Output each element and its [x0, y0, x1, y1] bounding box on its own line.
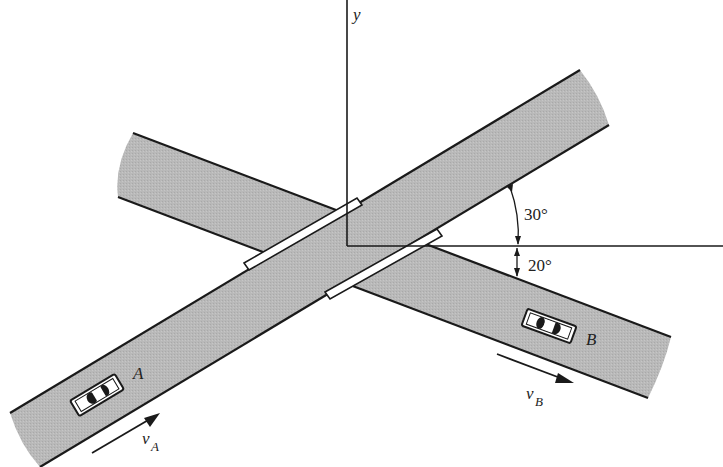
diagram-canvas: y 30° 20° A B v A v B — [0, 0, 723, 467]
arrowhead-icon — [555, 373, 574, 383]
angle-30-label: 30° — [524, 205, 548, 224]
car-b-label: B — [586, 330, 597, 349]
intersection-diagram: y 30° 20° A B v A v B — [0, 0, 723, 467]
velocity-a-label: v A — [142, 429, 159, 454]
svg-text:v: v — [142, 429, 150, 448]
angle-20-label: 20° — [528, 256, 552, 275]
angle-30-indicator — [506, 184, 521, 245]
arrowhead-icon — [514, 248, 520, 256]
arrowhead-icon — [514, 268, 520, 277]
arrowhead-icon — [515, 236, 521, 245]
car-a-label: A — [132, 364, 144, 383]
y-axis-label: y — [351, 5, 361, 24]
svg-text:B: B — [535, 394, 543, 409]
svg-text:v: v — [526, 384, 534, 403]
velocity-b-label: v B — [526, 384, 543, 409]
arrowhead-icon — [144, 413, 160, 427]
angle-20-indicator — [514, 248, 520, 277]
svg-text:A: A — [150, 439, 159, 454]
